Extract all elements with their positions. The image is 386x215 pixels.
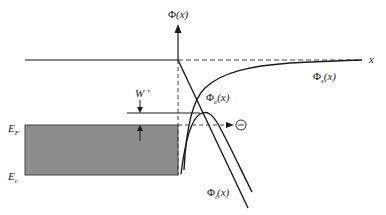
phi-axis-arrow-icon <box>175 24 182 33</box>
tunnel-arrow-icon <box>226 122 234 128</box>
conduction-band-label: Ec <box>7 170 19 185</box>
x-axis-label: x <box>368 53 374 65</box>
w-prime-arrow-down-icon <box>137 107 143 113</box>
fermi-level-label: EF <box>7 122 20 137</box>
phi-i-label: Φi(x) <box>207 186 230 201</box>
w-prime-label: W ' <box>135 87 150 99</box>
schottky-diagram: Φ(x) x Φs(x) Φe(x) Φi(x) W ' EF Ec <box>0 0 386 215</box>
phi-e-label: Φe(x) <box>206 91 230 106</box>
phi-s-label: Φs(x) <box>313 70 336 85</box>
metal-band-region <box>25 125 178 175</box>
phi-axis-label: Φ(x) <box>168 8 189 21</box>
